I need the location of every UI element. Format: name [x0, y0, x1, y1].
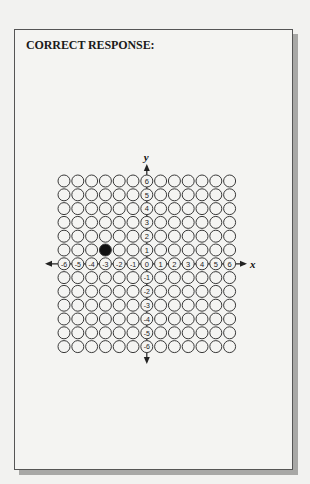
grid-point[interactable]	[86, 327, 98, 339]
grid-point[interactable]	[86, 285, 98, 297]
grid-point[interactable]	[127, 244, 139, 256]
grid-point[interactable]	[127, 341, 139, 353]
grid-point[interactable]	[141, 313, 153, 325]
grid-point[interactable]	[182, 230, 194, 242]
grid-point[interactable]	[113, 341, 125, 353]
grid-point[interactable]	[99, 203, 111, 215]
grid-point[interactable]	[155, 272, 167, 284]
grid-point[interactable]	[155, 299, 167, 311]
grid-point[interactable]	[58, 244, 70, 256]
grid-point[interactable]	[99, 189, 111, 201]
grid-point[interactable]	[224, 189, 236, 201]
grid-point[interactable]	[196, 175, 208, 187]
grid-point[interactable]	[58, 285, 70, 297]
grid-point[interactable]	[127, 189, 139, 201]
grid-point[interactable]	[58, 258, 70, 270]
grid-point[interactable]	[113, 175, 125, 187]
grid-point[interactable]	[99, 327, 111, 339]
grid-point[interactable]	[182, 175, 194, 187]
grid-point[interactable]	[113, 285, 125, 297]
grid-point[interactable]	[113, 327, 125, 339]
grid-point[interactable]	[72, 175, 84, 187]
grid-point[interactable]	[113, 216, 125, 228]
grid-point[interactable]	[86, 244, 98, 256]
grid-point[interactable]	[196, 203, 208, 215]
grid-point[interactable]	[99, 341, 111, 353]
grid-point[interactable]	[224, 216, 236, 228]
grid-point[interactable]	[224, 272, 236, 284]
grid-point[interactable]	[168, 299, 180, 311]
grid-point[interactable]	[155, 230, 167, 242]
grid-point[interactable]	[113, 244, 125, 256]
grid-point[interactable]	[99, 299, 111, 311]
grid-point[interactable]	[210, 244, 222, 256]
grid-point[interactable]	[72, 299, 84, 311]
grid-point[interactable]	[168, 341, 180, 353]
grid-point[interactable]	[196, 230, 208, 242]
grid-point[interactable]	[155, 327, 167, 339]
grid-point[interactable]	[196, 244, 208, 256]
grid-point[interactable]	[58, 313, 70, 325]
grid-point[interactable]	[127, 272, 139, 284]
grid-point[interactable]	[127, 313, 139, 325]
grid-point[interactable]	[182, 285, 194, 297]
grid-point[interactable]	[182, 313, 194, 325]
grid-point[interactable]	[86, 313, 98, 325]
grid-point[interactable]	[224, 313, 236, 325]
grid-point[interactable]	[210, 272, 222, 284]
grid-point[interactable]	[224, 203, 236, 215]
grid-point[interactable]	[168, 285, 180, 297]
grid-point[interactable]	[127, 216, 139, 228]
grid-point[interactable]	[141, 203, 153, 215]
grid-point[interactable]	[58, 299, 70, 311]
grid-point[interactable]	[155, 313, 167, 325]
grid-point[interactable]	[155, 175, 167, 187]
grid-point[interactable]	[58, 189, 70, 201]
grid-point[interactable]	[210, 216, 222, 228]
grid-point[interactable]	[72, 216, 84, 228]
grid-point[interactable]	[196, 258, 208, 270]
grid-point[interactable]	[86, 258, 98, 270]
grid-point[interactable]	[86, 175, 98, 187]
grid-point[interactable]	[155, 341, 167, 353]
grid-point[interactable]	[168, 175, 180, 187]
grid-point[interactable]	[196, 285, 208, 297]
grid-point[interactable]	[196, 189, 208, 201]
grid-point[interactable]	[72, 230, 84, 242]
grid-point[interactable]	[86, 189, 98, 201]
grid-point[interactable]	[141, 285, 153, 297]
grid-point[interactable]	[210, 313, 222, 325]
grid-point[interactable]	[58, 175, 70, 187]
grid-point[interactable]	[113, 258, 125, 270]
grid-point[interactable]	[99, 230, 111, 242]
grid-point[interactable]	[141, 341, 153, 353]
grid-point[interactable]	[99, 175, 111, 187]
grid-point[interactable]	[113, 299, 125, 311]
grid-point[interactable]	[86, 216, 98, 228]
grid-point[interactable]	[182, 216, 194, 228]
grid-point[interactable]	[141, 272, 153, 284]
grid-point[interactable]	[127, 203, 139, 215]
grid-point[interactable]	[168, 230, 180, 242]
grid-point[interactable]	[210, 230, 222, 242]
grid-point[interactable]	[155, 244, 167, 256]
grid-point[interactable]	[141, 327, 153, 339]
grid-point[interactable]	[155, 285, 167, 297]
grid-point[interactable]	[196, 327, 208, 339]
grid-point[interactable]	[168, 327, 180, 339]
grid-point[interactable]	[99, 216, 111, 228]
grid-point[interactable]	[141, 299, 153, 311]
grid-point[interactable]	[72, 244, 84, 256]
grid-point[interactable]	[141, 230, 153, 242]
grid-point[interactable]	[210, 203, 222, 215]
grid-point[interactable]	[58, 272, 70, 284]
grid-point[interactable]	[113, 203, 125, 215]
grid-point[interactable]	[224, 258, 236, 270]
selected-grid-point[interactable]	[99, 244, 111, 256]
grid-point[interactable]	[196, 216, 208, 228]
grid-point[interactable]	[127, 230, 139, 242]
grid-point[interactable]	[99, 313, 111, 325]
grid-point[interactable]	[210, 189, 222, 201]
grid-point[interactable]	[141, 258, 153, 270]
grid-point[interactable]	[113, 313, 125, 325]
